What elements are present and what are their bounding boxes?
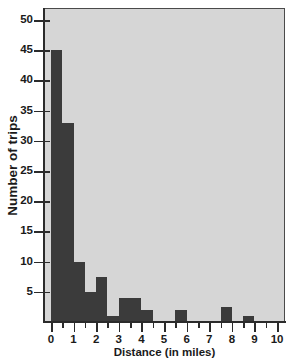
x-axis-tick-major: [164, 322, 166, 332]
y-axis-tick-inner: [43, 111, 50, 113]
histogram-bar: [74, 262, 85, 322]
y-axis-tick: [34, 292, 43, 294]
x-axis-tick-label: 10: [262, 334, 292, 346]
x-axis-tick-minor: [243, 322, 245, 328]
y-axis-tick-inner: [43, 20, 50, 22]
histogram-bar: [221, 307, 232, 322]
y-axis-tick-label: 45: [3, 45, 33, 57]
x-axis-tick-major: [254, 322, 256, 332]
y-axis-tick-label: 15: [3, 226, 33, 238]
x-axis-tick-major: [74, 322, 76, 332]
x-axis-tick-minor: [153, 322, 155, 328]
x-axis-tick-major: [277, 322, 279, 332]
bars-layer: [43, 8, 285, 322]
y-axis-tick: [34, 80, 43, 82]
y-axis-tick-label: 10: [3, 256, 33, 268]
x-axis-tick-major: [232, 322, 234, 332]
histogram-bar: [119, 298, 130, 322]
x-axis-tick-major: [96, 322, 98, 332]
y-axis-tick: [34, 171, 43, 173]
x-axis-tick-major: [119, 322, 121, 332]
y-axis-tick-inner: [43, 80, 50, 82]
y-axis-tick-label: 20: [3, 195, 33, 207]
y-axis-tick-inner: [43, 201, 50, 203]
x-axis-tick-major: [187, 322, 189, 332]
y-axis-tick-inner: [43, 262, 50, 264]
histogram-bar: [96, 277, 107, 322]
y-axis-tick-inner: [43, 231, 50, 233]
x-axis-tick-minor: [107, 322, 109, 328]
x-axis-tick-major: [209, 322, 211, 332]
y-axis-tick: [34, 262, 43, 264]
x-axis-tick-major: [51, 322, 53, 332]
x-axis-tick-minor: [175, 322, 177, 328]
y-axis-tick-inner: [43, 50, 50, 52]
y-axis-tick-inner: [43, 292, 50, 294]
y-axis-labels: 5101520253035404550: [0, 0, 33, 359]
histogram-bar: [51, 50, 62, 322]
x-axis-tick-minor: [221, 322, 223, 328]
y-axis-tick: [34, 231, 43, 233]
y-axis-tick: [34, 50, 43, 52]
y-axis-tick: [34, 20, 43, 22]
y-axis-tick-label: 50: [3, 14, 33, 26]
y-axis-tick: [34, 201, 43, 203]
histogram-bar: [130, 298, 141, 322]
x-axis-tick-minor: [62, 322, 64, 328]
y-axis-tick-inner: [43, 141, 50, 143]
y-axis-tick: [34, 111, 43, 113]
y-axis-tick-label: 30: [3, 135, 33, 147]
x-axis-tick-minor: [266, 322, 268, 328]
x-axis-tick-minor: [85, 322, 87, 328]
y-axis-tick: [34, 141, 43, 143]
histogram-bar: [62, 123, 73, 322]
x-axis-tick-minor: [198, 322, 200, 328]
y-axis-tick-inner: [43, 171, 50, 173]
y-axis-line: [43, 8, 45, 322]
histogram-bar: [85, 292, 96, 322]
y-axis-tick-label: 35: [3, 105, 33, 117]
x-axis-tick-minor: [130, 322, 132, 328]
x-axis-title: Distance (in miles): [43, 347, 286, 359]
y-axis-tick-label: 5: [3, 286, 33, 298]
y-axis-tick-label: 25: [3, 165, 33, 177]
x-axis-tick-major: [141, 322, 143, 332]
y-axis-tick-label: 40: [3, 75, 33, 87]
histogram-figure: Number of trips 5101520253035404550 0123…: [0, 0, 293, 359]
